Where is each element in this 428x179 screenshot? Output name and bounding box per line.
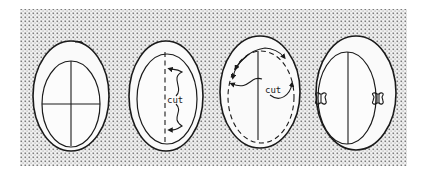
cut-label: cut	[167, 95, 183, 105]
panel-step-4	[315, 36, 396, 150]
panel-step-1	[33, 41, 109, 151]
outer-frame	[220, 36, 300, 148]
panel-step-3: cut	[220, 36, 300, 148]
instruction-diagram: cut cut	[0, 0, 428, 179]
inner-oval	[318, 52, 376, 144]
panel-step-2: cut	[129, 41, 203, 151]
cut-label: cut	[265, 85, 281, 95]
